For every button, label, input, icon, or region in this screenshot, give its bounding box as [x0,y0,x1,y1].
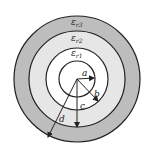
label-d: d [59,114,65,124]
concentric-circles-diagram: εr3 εr2 εr1 a b c d [0,0,148,148]
label-a: a [82,68,87,78]
label-b: b [94,89,100,99]
label-c: c [80,101,85,111]
